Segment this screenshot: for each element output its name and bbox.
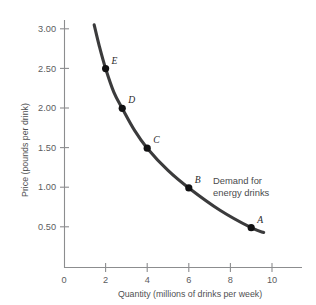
data-point-e [102,65,109,72]
data-point-a [248,224,255,231]
y-axis-tick-labels: 3.00 2.50 2.00 1.50 1.00 0.50 [38,24,56,232]
x-tick-label-8: 8 [228,275,233,285]
y-tick-label-1-50: 1.50 [38,143,56,153]
x-tick-label-6: 6 [186,275,191,285]
x-axis-tick-labels: 0 2 4 6 8 10 [61,275,277,285]
data-point-label-b: B [195,174,201,185]
y-tick-label-2-50: 2.50 [38,64,56,74]
data-point-d [119,105,126,112]
demand-curve-chart: 3.00 2.50 2.00 1.50 1.00 0.50 0 2 4 6 8 … [0,0,316,305]
data-point-label-a: A [256,214,263,225]
y-tick-label-1-00: 1.00 [38,182,56,192]
y-tick-label-0-50: 0.50 [38,222,56,232]
demand-curve [94,25,264,233]
x-tick-label-2: 2 [103,275,108,285]
chart-canvas: 3.00 2.50 2.00 1.50 1.00 0.50 0 2 4 6 8 … [0,0,316,305]
x-tick-label-0: 0 [61,275,66,285]
x-tick-label-4: 4 [145,275,150,285]
data-point-label-c: C [153,134,160,145]
chart-axes [65,20,303,268]
y-axis-title: Price (pounds per drink) [20,103,30,197]
data-point-label-e: E [111,55,118,66]
x-tick-label-10: 10 [267,275,277,285]
demand-curve-label: Demand for energy drinks [213,175,270,198]
data-point-c [144,145,151,152]
y-tick-label-2-00: 2.00 [38,103,56,113]
demand-curve-label-line2: energy drinks [213,187,270,198]
data-point-b [185,184,192,191]
demand-curve-label-line1: Demand for [213,175,262,186]
data-points-layer: ABCDE [102,55,263,232]
data-point-label-d: D [127,94,135,105]
y-tick-label-3-00: 3.00 [38,24,56,34]
x-axis-title: Quantity (millions of drinks per week) [118,289,262,299]
